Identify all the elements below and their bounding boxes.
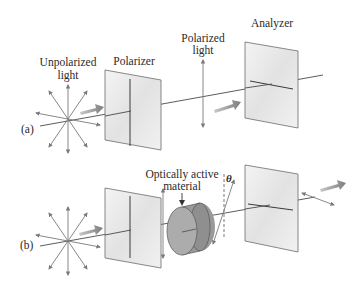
panel-b: θ Optically active material (b) [20,165,346,275]
unpolarized-light-icon [36,207,100,275]
polarized-light-label-2: light [192,44,214,57]
material-pointer-arrowhead [179,200,185,206]
flow-arrow-icon [320,180,346,192]
analyzer-b [245,165,298,252]
polarized-light-label: Polarized [181,32,225,44]
analyzer-a [245,42,298,128]
unpolarized-light-label-2: light [57,69,79,82]
panel-a-tag: (a) [21,123,34,136]
panel-b-tag: (b) [20,239,34,252]
analyzer-label: Analyzer [251,17,293,30]
unpolarized-light-label: Unpolarized [40,56,97,69]
panel-a: Unpolarized light Polarizer Polarized li… [21,17,323,153]
polarizer-label: Polarizer [113,55,155,67]
flow-arrow-icon [214,100,241,113]
flow-arrow-icon [80,104,104,115]
exit-polarization-arrow-icon [302,193,334,205]
theta-symbol: θ [226,172,232,184]
optically-active-material-cylinder [167,203,215,255]
unpolarized-light-icon [36,85,100,153]
material-label-2: material [163,180,201,192]
polarizer-b [105,188,161,268]
flow-arrow-icon [79,225,103,236]
polarizer-a [105,70,161,150]
optical-activity-figure: Unpolarized light Polarizer Polarized li… [0,0,364,288]
